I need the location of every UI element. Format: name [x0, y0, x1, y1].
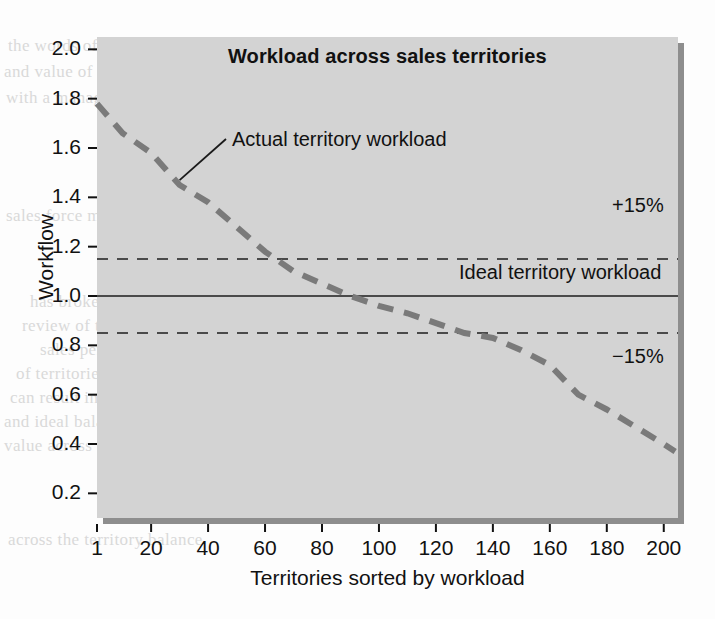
annotation-minus-15-percent: −15% [612, 345, 664, 368]
annotation-leader-group [180, 139, 226, 180]
y-tick-label: 1.6 [25, 135, 81, 159]
x-tick-label: 1 [91, 536, 103, 560]
y-tick-label: 1.8 [25, 86, 81, 110]
chart-title: Workload across sales territories [228, 45, 547, 68]
x-tick-label: 80 [310, 536, 333, 560]
y-tick-label: 1.0 [25, 283, 81, 307]
x-axis-title: Territories sorted by workload [97, 566, 678, 590]
y-tick-label: 0.8 [25, 332, 81, 356]
x-tick-label: 200 [646, 536, 681, 560]
annotation-plus-15-percent: +15% [612, 194, 664, 217]
axis-tick-marks [88, 49, 664, 532]
chart-figure: the words of the page behind show throug… [0, 0, 715, 619]
annotation-leader-line [180, 139, 226, 180]
x-tick-label: 100 [361, 536, 396, 560]
x-tick-label: 40 [196, 536, 219, 560]
annotation-ideal-territory-workload: Ideal territory workload [459, 261, 661, 284]
x-tick-label: 140 [475, 536, 510, 560]
y-tick-label: 2.0 [25, 36, 81, 60]
x-tick-label: 20 [139, 536, 162, 560]
chart-canvas [0, 0, 715, 619]
x-tick-label: 120 [418, 536, 453, 560]
x-tick-label: 180 [589, 536, 624, 560]
x-tick-label: 160 [532, 536, 567, 560]
y-tick-label: 1.4 [25, 184, 81, 208]
y-tick-label: 0.4 [25, 431, 81, 455]
annotation-actual-territory-workload: Actual territory workload [232, 128, 447, 151]
x-tick-label: 60 [253, 536, 276, 560]
y-tick-label: 1.2 [25, 234, 81, 258]
y-tick-label: 0.2 [25, 480, 81, 504]
y-tick-label: 0.6 [25, 382, 81, 406]
